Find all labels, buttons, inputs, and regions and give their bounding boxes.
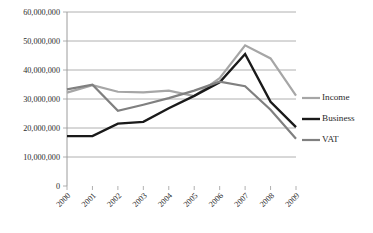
x-tick-marks (67, 186, 296, 190)
x-tick-label: 2002 (105, 191, 123, 209)
x-tick-label: 2007 (233, 191, 251, 209)
x-tick-label: 2009 (283, 191, 301, 209)
series-line-vat (67, 82, 296, 139)
chart-legend: IncomeBusinessVAT (302, 92, 355, 144)
legend-label-business: Business (322, 113, 355, 123)
y-axis-tick-labels: 010,000,00020,000,00030,000,00040,000,00… (23, 8, 60, 191)
y-tick-marks (63, 12, 67, 186)
series-line-income (67, 45, 296, 96)
y-tick-label: 0 (56, 182, 60, 191)
chart-container: 010,000,00020,000,00030,000,00040,000,00… (0, 0, 373, 233)
x-tick-label: 2000 (54, 191, 72, 209)
y-tick-label: 60,000,000 (23, 8, 60, 17)
y-tick-label: 40,000,000 (23, 66, 60, 75)
legend-label-vat: VAT (322, 134, 339, 144)
data-series-group (67, 45, 296, 138)
y-tick-label: 50,000,000 (23, 37, 60, 46)
y-tick-label: 10,000,000 (23, 153, 60, 162)
line-chart: 010,000,00020,000,00030,000,00040,000,00… (0, 0, 373, 233)
x-tick-label: 2001 (80, 191, 98, 209)
x-tick-label: 2003 (131, 191, 149, 209)
x-tick-label: 2004 (156, 191, 174, 209)
y-tick-label: 30,000,000 (23, 95, 60, 104)
y-tick-label: 20,000,000 (23, 124, 60, 133)
x-tick-label: 2006 (207, 191, 225, 209)
x-tick-label: 2008 (258, 191, 276, 209)
legend-label-income: Income (322, 92, 350, 102)
x-axis-tick-labels: 2000200120022003200420052006200720082009 (54, 191, 301, 209)
x-tick-label: 2005 (182, 191, 200, 209)
